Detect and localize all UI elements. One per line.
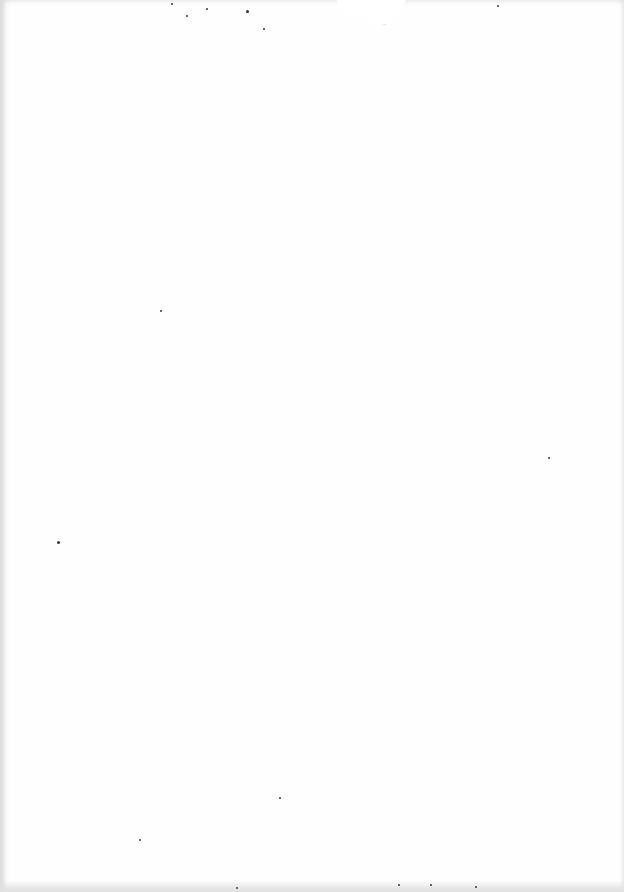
scan-edge-shadow-left	[0, 0, 6, 892]
dust-speck	[497, 5, 499, 7]
dust-speck	[548, 457, 550, 459]
dust-speck	[171, 3, 173, 5]
dust-speck	[206, 8, 208, 10]
dust-speck	[236, 887, 238, 889]
dust-speck	[475, 886, 477, 888]
dust-speck	[263, 28, 265, 30]
blank-page	[0, 0, 624, 892]
paper-tear	[336, 0, 406, 25]
dust-speck	[160, 310, 162, 312]
dust-speck	[246, 10, 249, 13]
dust-speck	[279, 797, 281, 799]
dust-speck	[430, 884, 432, 886]
dust-speck	[186, 15, 188, 17]
dust-speck	[139, 839, 141, 841]
dust-speck	[398, 884, 400, 886]
dust-speck	[57, 541, 60, 544]
scan-edge-shadow-bottom	[0, 880, 624, 892]
